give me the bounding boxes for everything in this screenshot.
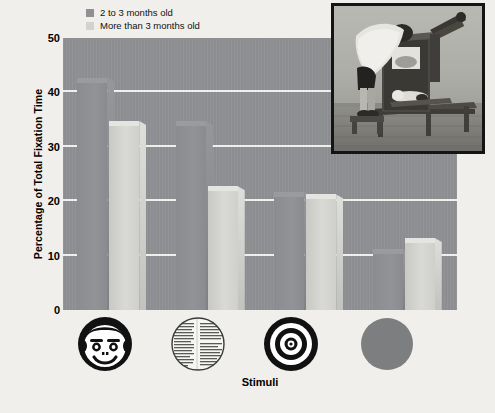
legend-entry: 2 to 3 months old bbox=[86, 6, 200, 19]
bar-top-cap bbox=[109, 121, 139, 126]
bar-top-cap bbox=[373, 249, 403, 254]
bar bbox=[306, 198, 336, 310]
bar-top-cap bbox=[77, 78, 107, 83]
bar bbox=[373, 253, 403, 310]
y-tick-label: 0 bbox=[36, 305, 60, 315]
bar-side-panel bbox=[336, 194, 343, 310]
bar-side-panel bbox=[139, 121, 146, 310]
bar-face bbox=[405, 242, 435, 310]
bar bbox=[405, 242, 435, 310]
legend-label-2to3months: 2 to 3 months old bbox=[100, 7, 173, 18]
bar-top-cap bbox=[208, 186, 238, 191]
fantz-looking-chamber-photo bbox=[331, 3, 485, 154]
bar-side-panel bbox=[238, 186, 245, 310]
legend: 2 to 3 months old More than 3 months old bbox=[86, 6, 200, 32]
bar-top-cap bbox=[306, 194, 336, 199]
figure-root: Percentage of Total Fixation Time 010203… bbox=[0, 0, 495, 413]
y-tick-label: 40 bbox=[36, 87, 60, 97]
bar bbox=[208, 190, 238, 310]
bar-face bbox=[109, 125, 139, 310]
bar-side-panel bbox=[435, 238, 442, 310]
plain-disc-stimulus bbox=[359, 316, 415, 372]
y-tick-label: 30 bbox=[36, 142, 60, 152]
bar bbox=[77, 82, 107, 310]
face-stimulus bbox=[77, 316, 133, 372]
bar bbox=[176, 125, 206, 310]
bar-face bbox=[176, 125, 206, 310]
stimuli-row bbox=[63, 314, 457, 376]
legend-swatch-more-than-3months bbox=[86, 22, 94, 30]
bar-face bbox=[274, 196, 304, 310]
y-tick-label: 50 bbox=[36, 33, 60, 43]
bar bbox=[109, 125, 139, 310]
bullseye-stimulus bbox=[263, 316, 319, 372]
y-axis-ticks: 01020304050 bbox=[30, 0, 60, 413]
bar-top-cap bbox=[405, 238, 435, 243]
newsprint-stimulus bbox=[170, 316, 226, 372]
legend-swatch-2to3months bbox=[86, 9, 94, 17]
x-axis-title: Stimuli bbox=[63, 376, 457, 388]
bar-face bbox=[208, 190, 238, 310]
y-tick-label: 10 bbox=[36, 251, 60, 261]
legend-label-more-than-3months: More than 3 months old bbox=[100, 20, 200, 31]
bar bbox=[274, 196, 304, 310]
bar-face bbox=[306, 198, 336, 310]
bar-top-cap bbox=[176, 121, 206, 126]
bar-face bbox=[77, 82, 107, 310]
bar-top-cap bbox=[274, 192, 304, 197]
y-tick-label: 20 bbox=[36, 196, 60, 206]
bar-face bbox=[373, 253, 403, 310]
legend-entry: More than 3 months old bbox=[86, 19, 200, 32]
